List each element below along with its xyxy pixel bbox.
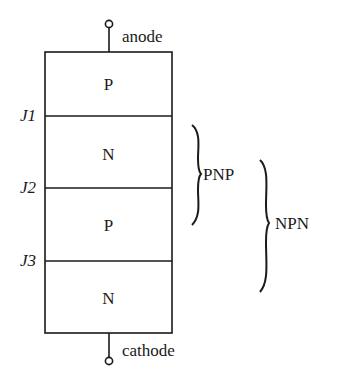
layer-4-label: N [45,290,172,307]
layer-1-label: P [45,76,172,93]
pnp-label: PNP [203,166,234,183]
junction-j2-label: J2 [20,179,36,196]
anode-label: anode [122,28,163,45]
thyristor-structure [0,0,344,387]
junction-j3-label: J3 [20,252,36,269]
junction-j1-label: J1 [20,107,36,124]
cathode-label: cathode [122,342,175,359]
anode-terminal [105,20,112,52]
layer-3-label: P [45,217,172,234]
layer-2-label: N [45,146,172,163]
cathode-terminal [105,333,112,365]
npn-label: NPN [275,215,309,232]
npn-brace [260,160,269,292]
pnp-brace [192,125,201,225]
